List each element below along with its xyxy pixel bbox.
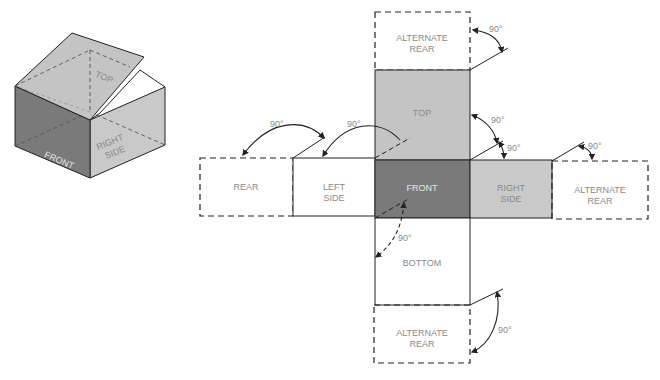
arrow-right-side-fold: [499, 142, 504, 158]
angle-label-rear: 90°: [270, 119, 284, 129]
angle-label-alt-rear-bottom: 90°: [498, 325, 512, 335]
left-side-line2: SIDE: [323, 193, 344, 203]
angle-label-bottom: 90°: [398, 233, 412, 243]
alt-rear-top-line1: ALTERNATE: [396, 33, 448, 43]
alt-rear-bottom-line1: ALTERNATE: [396, 328, 448, 338]
left-side-line1: LEFT: [323, 182, 346, 192]
front-label: FRONT: [407, 183, 438, 193]
angle-label-alt-rear-right: 90°: [588, 141, 602, 151]
top-label: TOP: [413, 108, 431, 118]
arrow-rear-fold: [243, 125, 324, 155]
alt-rear-top-line2: REAR: [409, 44, 435, 54]
angle-label-alt-rear-top: 90°: [489, 24, 503, 34]
right-side-line2: SIDE: [500, 194, 521, 204]
alt-rear-bottom-line2: REAR: [409, 339, 435, 349]
box-net: ALTERNATE REAR TOP REAR LEFT SIDE FRONT …: [200, 12, 648, 363]
rear-label: REAR: [233, 182, 259, 192]
bottom-label: BOTTOM: [403, 258, 441, 268]
angle-label-left-side: 90°: [347, 119, 361, 129]
angle-label-right-side: 90°: [507, 143, 521, 153]
alt-rear-right-line2: REAR: [587, 196, 613, 206]
arrow-alt-rear-bottom-fold: [472, 292, 498, 352]
box-fold-diagram: TOP FRONT RIGHT SIDE ALTERNATE REAR TOP …: [0, 0, 660, 380]
right-side-line1: RIGHT: [497, 183, 526, 193]
alt-rear-right-line1: ALTERNATE: [574, 185, 626, 195]
angle-label-top: 90°: [491, 115, 505, 125]
isometric-box: TOP FRONT RIGHT SIDE: [15, 33, 165, 178]
